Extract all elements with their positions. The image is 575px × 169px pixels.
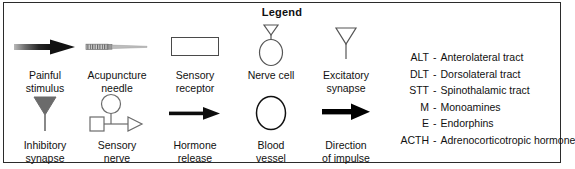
acupuncture-needle-icon	[78, 23, 156, 69]
legend-label: Excitatory synapse	[307, 69, 385, 94]
abbreviation-value: Adrenocorticotropic hormone	[441, 132, 575, 149]
legend-entry-blood-vessel: Blood vessel	[232, 93, 310, 164]
legend-label: Sensory nerve	[78, 139, 156, 164]
abbreviation-key: DLT	[396, 66, 429, 83]
legend-label: Acupuncture needle	[78, 69, 156, 94]
abbreviation-dash: -	[429, 66, 441, 83]
abbreviation-value: Monoamines	[441, 99, 501, 116]
abbreviation-key: STT	[396, 82, 429, 99]
direction-of-impulse-arrow-icon	[318, 101, 374, 141]
legend-label: Direction of impulse	[307, 139, 385, 164]
legend-entry-painful-stimulus: Painful stimulus	[6, 23, 84, 94]
legend-label: Inhibitory synapse	[6, 139, 84, 164]
blood-vessel-icon	[253, 93, 289, 137]
abbreviation-value: Anterolateral tract	[441, 49, 524, 66]
abbreviation-dash: -	[429, 49, 441, 66]
abbreviation-value: Endorphins	[441, 115, 494, 132]
abbreviation-dash: -	[429, 132, 441, 149]
legend-entry-nerve-cell: Nerve cell	[232, 23, 310, 82]
abbreviation-dash: -	[429, 99, 441, 116]
abbreviation-value: Dorsolateral tract	[441, 66, 521, 83]
legend-entry-sensory-receptor: Sensory receptor	[156, 23, 234, 94]
abbreviation-row: STT - Spinothalamic tract	[396, 82, 558, 99]
abbreviation-row: M - Monoamines	[396, 99, 558, 116]
nerve-cell-icon	[254, 23, 288, 69]
legend-entry-sensory-nerve: Sensory nerve	[78, 93, 156, 164]
legend-entry-direction-of-impulse: Direction of impulse	[307, 93, 385, 164]
abbreviation-key: ACTH	[396, 132, 429, 149]
abbreviation-row: E - Endorphins	[396, 115, 558, 132]
abbreviation-key: ALT	[396, 49, 429, 66]
excitatory-synapse-icon	[331, 23, 361, 63]
legend-label: Nerve cell	[232, 69, 310, 82]
gradient-arrow-icon	[6, 23, 84, 69]
abbreviation-row: DLT - Dorsolateral tract	[396, 66, 558, 83]
hormone-release-arrow-icon	[167, 103, 223, 143]
legend-label: Sensory receptor	[156, 69, 234, 94]
legend-label: Blood vessel	[232, 139, 310, 164]
abbreviation-row: ALT - Anterolateral tract	[396, 49, 558, 66]
abbreviation-key: E	[396, 115, 429, 132]
legend-panel: Legend Painful stimulus	[3, 2, 561, 163]
abbreviation-value: Spinothalamic tract	[441, 82, 530, 99]
legend-entry-acupuncture-needle: Acupuncture needle	[78, 23, 156, 94]
abbreviation-key: M	[396, 99, 429, 116]
legend-entry-excitatory-synapse: Excitatory synapse	[307, 23, 385, 94]
abbreviation-dash: -	[429, 82, 441, 99]
legend-entry-hormone-release: Hormone release	[156, 93, 234, 164]
rectangle-receptor-icon	[171, 37, 219, 56]
legend-entry-inhibitory-synapse: Inhibitory synapse	[6, 93, 84, 164]
abbreviation-dash: -	[429, 115, 441, 132]
abbreviation-row: ACTH - Adrenocorticotropic hormone	[396, 132, 558, 149]
abbreviation-list: ALT - Anterolateral tract DLT - Dorsolat…	[396, 49, 558, 149]
sensory-nerve-icon	[88, 93, 146, 137]
legend-title: Legend	[4, 6, 560, 18]
legend-label: Painful stimulus	[6, 69, 84, 94]
inhibitory-synapse-icon	[30, 93, 60, 135]
